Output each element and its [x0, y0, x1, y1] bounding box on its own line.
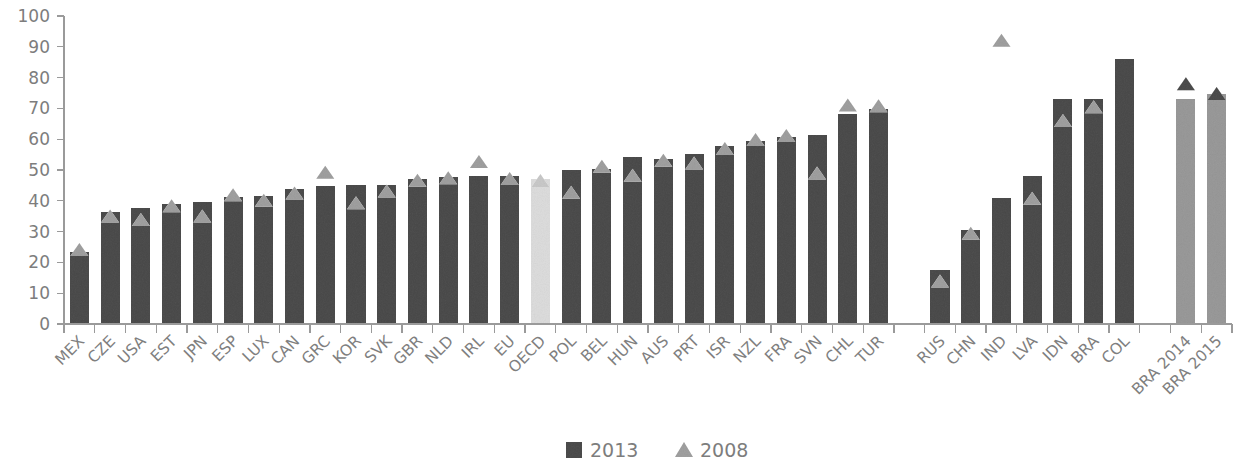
marker-triangle: [747, 133, 765, 146]
bar: [623, 157, 642, 324]
y-tick-label: 80: [28, 68, 50, 88]
x-tick-label: BRA: [1068, 332, 1103, 367]
bar: [224, 197, 243, 324]
bar: [838, 114, 857, 324]
y-tick-label: 10: [28, 283, 50, 303]
bar: [1053, 99, 1072, 324]
bar: [254, 196, 273, 324]
x-tick-label: CHN: [943, 332, 980, 369]
x-tick-label: PRT: [670, 332, 703, 365]
chart-legend: 20132008: [566, 439, 748, 461]
x-tick-label: SVN: [790, 332, 825, 367]
x-tick-label: AUS: [637, 332, 672, 367]
bar: [869, 109, 888, 324]
x-tick-label: ESP: [209, 332, 242, 365]
legend-label: 2008: [700, 439, 748, 461]
bar: [439, 177, 458, 324]
marker-triangle: [777, 129, 795, 142]
marker-triangle: [316, 166, 334, 179]
bar: [408, 179, 427, 324]
x-tick-label: IND: [978, 332, 1011, 365]
y-tick-label: 0: [39, 314, 50, 334]
x-tick-label: LVA: [1009, 332, 1041, 364]
bar: [500, 176, 519, 324]
bar: [101, 212, 120, 324]
marker-triangle: [470, 155, 488, 168]
y-tick-label: 100: [18, 6, 50, 26]
bar: [808, 135, 827, 324]
bar: [1176, 99, 1195, 324]
x-tick-label: HUN: [604, 332, 641, 369]
x-tick-label: LUX: [239, 332, 273, 366]
marker-triangle: [593, 160, 611, 173]
bar: [377, 185, 396, 324]
bar: [715, 146, 734, 324]
bar: [592, 169, 611, 324]
bar: [746, 141, 765, 324]
legend-label: 2013: [590, 439, 638, 461]
x-tick-label: NZL: [730, 332, 765, 367]
x-axis: MEXCZEUSAESTJPNESPLUXCANGRCKORSVKGBRNLDI…: [52, 324, 1232, 398]
bar: [961, 230, 980, 324]
bar: [162, 204, 181, 324]
bar-chart: 0102030405060708090100 MEXCZEUSAESTJPNES…: [0, 0, 1240, 464]
x-tick-label: ISR: [703, 332, 734, 363]
bar: [1115, 59, 1134, 324]
marker-triangle: [870, 99, 888, 112]
marker-triangle: [224, 188, 242, 201]
x-tick-label: MEX: [52, 332, 89, 369]
bar: [685, 154, 704, 324]
legend-swatch-triangle: [675, 442, 693, 457]
x-tick-label: EST: [147, 332, 181, 366]
x-tick-label: GRC: [298, 332, 334, 368]
chart-container: 0102030405060708090100 MEXCZEUSAESTJPNES…: [0, 0, 1240, 464]
y-tick-label: 40: [28, 191, 50, 211]
x-tick-label: KOR: [329, 332, 365, 368]
marker-triangle: [992, 34, 1010, 47]
x-tick-label: NLD: [422, 332, 458, 368]
y-tick-label: 70: [28, 98, 50, 118]
x-tick-label: FRA: [761, 332, 795, 366]
x-tick-label: POL: [546, 332, 580, 366]
bar: [1207, 94, 1226, 324]
x-tick-label: TUR: [852, 332, 888, 368]
x-tick-label: IRL: [458, 332, 488, 362]
legend-swatch-square: [566, 442, 582, 458]
marker-triangle: [839, 99, 857, 112]
bar: [777, 137, 796, 324]
x-tick-label: IDN: [1039, 332, 1072, 365]
bar: [316, 186, 335, 324]
plot-area: [70, 34, 1226, 324]
bar: [70, 252, 89, 324]
x-tick-label: CZE: [84, 332, 119, 367]
x-tick-label: USA: [114, 332, 150, 368]
x-tick-label: CAN: [267, 332, 303, 368]
x-tick-label: COL: [1098, 332, 1133, 367]
x-tick-label: RUS: [913, 332, 948, 367]
y-tick-label: 60: [28, 129, 50, 149]
bar: [285, 189, 304, 324]
y-tick-label: 50: [28, 160, 50, 180]
bar: [1084, 99, 1103, 324]
marker-triangle: [70, 243, 88, 256]
marker-triangle: [1177, 77, 1195, 90]
bar: [992, 198, 1011, 324]
y-axis: 0102030405060708090100: [18, 6, 64, 334]
y-tick-label: 30: [28, 222, 50, 242]
x-tick-label: BEL: [577, 332, 611, 366]
x-tick-label: CHL: [822, 332, 857, 367]
y-tick-label: 90: [28, 37, 50, 57]
bar: [469, 176, 488, 324]
x-tick-label: SVK: [361, 332, 396, 367]
y-tick-label: 20: [28, 252, 50, 272]
x-tick-label: JPN: [180, 332, 211, 363]
x-tick-label: GBR: [390, 332, 427, 369]
bar: [654, 159, 673, 324]
bar: [531, 179, 550, 324]
